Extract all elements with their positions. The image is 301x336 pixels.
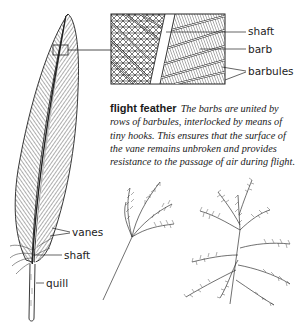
label-barb: barb — [248, 44, 272, 55]
label-vanes: vanes — [72, 227, 103, 238]
flight-feather — [10, 14, 111, 321]
label-quill: quill — [46, 278, 68, 289]
down-feather — [184, 178, 290, 306]
label-shaft-detail: shaft — [248, 26, 274, 37]
figure-caption: flight featherThe barbs are united by ro… — [110, 102, 300, 168]
label-barbules: barbules — [248, 66, 294, 77]
barb-detail-inset — [111, 14, 246, 84]
caption-title: flight feather — [110, 102, 177, 114]
label-shaft: shaft — [64, 250, 90, 261]
contour-feather — [103, 182, 174, 300]
